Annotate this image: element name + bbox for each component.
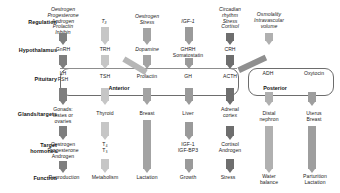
arrow-pituitary-to-gland-gh	[185, 88, 192, 105]
arrow-gland-to-hormone-adrenal	[226, 126, 233, 140]
arrow-regulation-to-hypothalamus-prolactin	[143, 28, 150, 45]
function-gonadal-axis: Reproduction	[40, 175, 88, 181]
hypothalamus-growth-hormone-axis: GHRH Somatostatin	[166, 47, 210, 59]
pituitary-thyroid-axis: TSH	[89, 74, 121, 80]
arrow-hormone-to-function-adrenal	[226, 159, 233, 173]
arrow-hormone-to-function-gonadal	[59, 161, 66, 173]
function-thyroid-axis: Metabolism	[84, 175, 126, 181]
arrow-gland-to-hormone-gonadal	[59, 126, 66, 140]
gland-adh-axis: Distal nephron	[250, 111, 288, 123]
arrow-regulation-to-pituitary-adh	[265, 33, 272, 45]
target-hormone-gonadal-axis: Oestrogen Progesterone Androgen	[40, 142, 86, 159]
arrow-pituitary-to-gland-prolactin	[143, 88, 150, 105]
regulation-thyroid-axis: T₃	[88, 19, 120, 25]
arrow-hypothalamus-to-pituitary-thyroid	[101, 55, 108, 69]
function-growth-hormone-axis: Growth	[170, 175, 206, 181]
hypothalamus-prolactin-axis: Dopamine	[126, 47, 168, 53]
regulation-gonadal-axis: Oestrogen Progesterone Androgen Prolacti…	[40, 7, 86, 36]
arrow-gland-to-hormone-gh	[185, 122, 192, 140]
hypothalamus-adrenal-axis: CRH	[212, 47, 248, 53]
regulation-prolactin-axis: Oestrogen Stress	[126, 14, 168, 26]
target-hormone-adrenal-axis: Cortisol Androgen	[208, 142, 252, 154]
pituitary-oxytocin-axis: Oxytocin	[292, 71, 336, 77]
arrow-hypothalamus-to-pituitary-adrenal	[226, 55, 233, 69]
posterior-pituitary-label: Posterior	[252, 85, 298, 91]
arrow-pituitary-to-gland-oxytocin	[308, 92, 315, 106]
hypothalamus-gonadal-axis: GnRH	[47, 47, 79, 53]
pituitary-prolactin-axis: Prolactin	[128, 74, 166, 80]
target-hormone-growth-hormone-axis: IGF-1 IGF-BP3	[168, 142, 208, 154]
arrow-gland-to-function-oxytocin	[308, 126, 315, 173]
arrow-regulation-to-hypothalamus-thyroid	[101, 27, 108, 45]
arrow-regulation-to-hypothalamus-gonadal	[59, 33, 66, 45]
regulation-adh-axis: Osmolality Intravascular volume	[246, 12, 292, 29]
hypothalamus-thyroid-axis: TRH	[89, 47, 121, 53]
arrow-pituitary-to-gland-gonadal	[59, 88, 66, 105]
arrow-gland-to-function-adh	[265, 126, 272, 173]
function-adrenal-axis: Stress	[210, 175, 246, 181]
arrow-pituitary-to-gland-adh	[265, 92, 272, 106]
gland-growth-hormone-axis: Liver	[172, 111, 204, 117]
endocrine-axis-diagram: Regulation Hypothalamus Pituitary Glands…	[0, 0, 340, 193]
pituitary-gonadal-axis: LH FSH	[47, 71, 79, 83]
gland-thyroid-axis: Thyroid	[88, 111, 122, 117]
target-hormone-thyroid-axis: T₄ T₃	[89, 142, 121, 154]
pituitary-growth-hormone-axis: GH	[172, 74, 204, 80]
arrow-hormone-to-function-thyroid	[101, 159, 108, 173]
arrow-pituitary-to-gland-thyroid	[101, 88, 108, 105]
arrow-hypothalamus-to-pituitary-gh	[185, 58, 192, 69]
arrow-hormone-to-function-gh	[185, 159, 192, 173]
gland-prolactin-axis: Breast	[130, 111, 164, 117]
function-adh-axis: Water balance	[250, 174, 288, 186]
arrow-gland-to-hormone-thyroid	[101, 122, 108, 140]
arrow-regulation-to-hypothalamus-adrenal	[226, 33, 233, 45]
pituitary-adh-axis: ADH	[252, 71, 284, 77]
gland-gonadal-axis: Gonads: testes or ovaries	[45, 107, 81, 124]
arrow-pituitary-to-gland-adrenal	[226, 88, 233, 105]
regulation-growth-hormone-axis: IGF-1	[170, 19, 206, 25]
arrow-hypothalamus-to-pituitary-prolactin	[143, 55, 150, 69]
function-oxytocin-axis: Parturition Lactation	[292, 174, 338, 186]
arrow-gland-to-function-prolactin	[143, 120, 150, 173]
gland-oxytocin-axis: Uterus Breast	[294, 111, 334, 123]
arrow-hypothalamus-to-pituitary-gonadal	[59, 55, 66, 69]
gland-adrenal-axis: Adrenal cortex	[210, 107, 250, 119]
function-prolactin-axis: Lactation	[126, 175, 168, 181]
arrow-regulation-to-hypothalamus-gh	[185, 27, 192, 45]
pituitary-adrenal-axis: ACTH	[212, 74, 248, 80]
